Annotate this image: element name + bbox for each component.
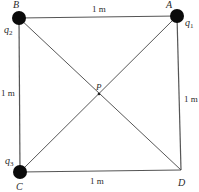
edge-bottom — [20, 170, 181, 172]
charge-a-dot — [170, 9, 184, 23]
charge-c-dot — [13, 165, 27, 179]
charge-q3-sub: 3 — [10, 160, 14, 168]
edge-top — [19, 16, 177, 18]
vertex-c-label: C — [16, 181, 23, 192]
charge-q3-label: q3 — [5, 155, 14, 168]
vertex-d-label: D — [177, 177, 186, 188]
point-p-label: P — [95, 82, 102, 92]
edge-right — [177, 16, 181, 170]
point-p-marker — [98, 93, 101, 96]
edge-left-length: 1 m — [1, 88, 15, 98]
square-charge-diagram: P B A C D q2 q1 q3 1 m 1 m 1 m 1 m — [0, 0, 199, 192]
edge-top-length: 1 m — [92, 4, 106, 14]
charge-q2-label: q2 — [4, 24, 13, 37]
edge-right-length: 1 m — [184, 94, 198, 104]
edge-bottom-length: 1 m — [90, 176, 104, 186]
vertex-a-label: A — [165, 0, 173, 10]
charge-b-dot — [12, 11, 26, 25]
edge-left — [19, 18, 20, 172]
charge-q1-label: q1 — [185, 17, 194, 30]
vertex-b-label: B — [13, 0, 19, 10]
charge-q1-sub: 1 — [190, 22, 194, 30]
charge-q2-sub: 2 — [9, 29, 13, 37]
